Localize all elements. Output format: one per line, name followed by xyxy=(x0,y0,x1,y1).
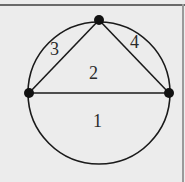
circle-triangle-diagram: 1 2 3 4 xyxy=(0,0,185,182)
node-top xyxy=(94,15,104,25)
region-label-1: 1 xyxy=(93,111,102,131)
region-label-2: 2 xyxy=(89,63,98,83)
node-left xyxy=(24,88,34,98)
region-label-4: 4 xyxy=(130,32,139,52)
node-right xyxy=(164,88,174,98)
region-label-3: 3 xyxy=(50,39,59,59)
